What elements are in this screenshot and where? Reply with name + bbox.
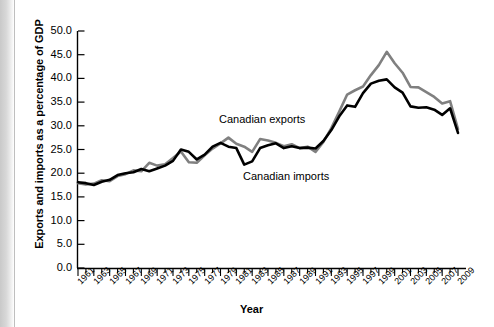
y-axis-ticks <box>78 31 85 268</box>
chart-figure: Exports and imports as a percentage of G… <box>0 0 494 327</box>
axis-lines <box>77 31 466 269</box>
series-label-canadian-imports: Canadian imports <box>243 170 329 182</box>
x-axis-ticks <box>78 268 458 276</box>
series-label-canadian-exports: Canadian exports <box>219 113 305 125</box>
plot-area <box>0 0 494 327</box>
